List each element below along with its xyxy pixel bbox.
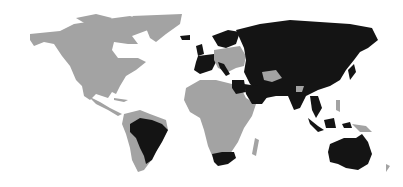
region-indonesia[interactable] bbox=[308, 118, 352, 132]
region-australia[interactable] bbox=[328, 134, 372, 170]
region-uk[interactable] bbox=[196, 44, 204, 56]
region-papua[interactable] bbox=[352, 124, 372, 132]
region-madagascar[interactable] bbox=[252, 138, 259, 156]
region-north-america[interactable] bbox=[30, 16, 150, 100]
region-philippines[interactable] bbox=[336, 100, 340, 112]
region-south-africa[interactable] bbox=[212, 152, 236, 166]
region-southeast-asia[interactable] bbox=[310, 96, 322, 118]
region-central-europe[interactable] bbox=[214, 46, 246, 72]
region-scandinavia[interactable] bbox=[212, 30, 240, 48]
region-new-zealand[interactable] bbox=[386, 164, 390, 172]
region-caribbean[interactable] bbox=[114, 98, 128, 102]
region-iceland[interactable] bbox=[180, 35, 190, 40]
region-japan[interactable] bbox=[348, 64, 356, 80]
world-map bbox=[0, 0, 403, 187]
region-western-europe[interactable] bbox=[194, 54, 216, 74]
